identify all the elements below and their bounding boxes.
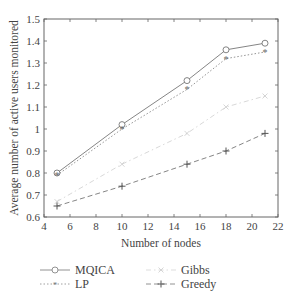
data-point [184, 78, 190, 84]
data-point: * [263, 47, 268, 58]
x-tick-label: 22 [273, 220, 284, 232]
data-point: * [55, 170, 60, 181]
y-tick-label: 1.4 [26, 35, 40, 47]
y-tick-label: 1 [35, 123, 41, 135]
data-point [224, 105, 229, 110]
y-tick-label: 0.8 [26, 167, 40, 179]
x-marker-icon [146, 265, 176, 275]
series-greedy [54, 130, 269, 210]
x-tick-label: 6 [67, 220, 73, 232]
data-point [223, 47, 229, 53]
x-tick-label: 4 [41, 220, 47, 232]
circle-marker-icon [40, 265, 70, 275]
y-tick-label: 0.6 [26, 211, 40, 223]
legend-item-gibbs: Gibbs [146, 263, 210, 277]
data-point: * [185, 84, 190, 95]
y-tick-label: 1.1 [26, 101, 40, 113]
legend-item-mqica: MQICA [40, 263, 115, 277]
data-point [120, 162, 125, 167]
x-tick-label: 14 [169, 220, 181, 232]
data-point [263, 94, 268, 99]
y-tick-label: 1.3 [26, 57, 40, 69]
x-tick-label: 12 [143, 220, 154, 232]
plot-frame [44, 19, 278, 217]
data-point [119, 183, 126, 190]
legend-label: Greedy [181, 277, 216, 292]
x-tick-label: 18 [221, 220, 233, 232]
data-point [185, 131, 190, 136]
data-point [262, 40, 268, 46]
line-chart: ***** 468101214161820220.60.70.80.911.11… [0, 0, 306, 262]
x-axis-label: Number of nodes [121, 237, 201, 249]
series-gibbs [55, 94, 268, 205]
legend-item-lp: * LP [40, 277, 89, 291]
data-point: * [224, 54, 229, 65]
y-tick-label: 1.2 [26, 79, 40, 91]
x-tick-label: 16 [195, 220, 207, 232]
y-axis-label: Average number of active users monitored [8, 20, 21, 216]
plot-area: ***** [54, 40, 269, 209]
svg-text:*: * [53, 280, 58, 289]
y-tick-label: 0.9 [26, 145, 40, 157]
legend-label: MQICA [75, 263, 115, 278]
data-point: * [120, 124, 125, 135]
x-tick-label: 20 [247, 220, 259, 232]
data-point [262, 130, 269, 137]
series-mqica [54, 40, 268, 176]
data-point [223, 148, 230, 155]
axes: 468101214161820220.60.70.80.911.11.21.31… [26, 13, 283, 232]
legend-item-greedy: Greedy [146, 277, 216, 291]
y-tick-label: 1.5 [26, 13, 40, 25]
series-lp: ***** [55, 47, 268, 181]
x-tick-label: 10 [117, 220, 129, 232]
y-tick-label: 0.7 [26, 189, 40, 201]
star-marker-icon: * [40, 279, 70, 289]
plus-marker-icon [146, 279, 176, 289]
legend-label: LP [75, 277, 89, 292]
data-point [184, 161, 191, 168]
x-tick-label: 8 [93, 220, 99, 232]
legend-label: Gibbs [181, 263, 210, 278]
